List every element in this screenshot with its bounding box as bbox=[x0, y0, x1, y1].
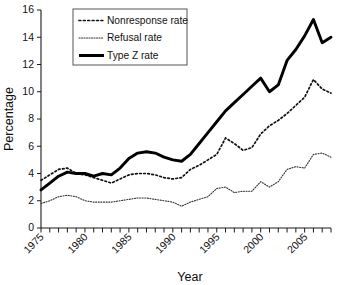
x-tick-label: 1980 bbox=[65, 230, 90, 255]
y-tick-label: 4 bbox=[28, 167, 34, 179]
line-chart: 0246810121416197519801985199019952000200… bbox=[0, 0, 341, 285]
legend: Nonresponse rateRefusal rateType Z rate bbox=[73, 9, 188, 65]
y-axis-ticks: 0246810121416 bbox=[22, 3, 41, 233]
y-axis-title: Percentage bbox=[2, 87, 16, 151]
y-tick-label: 8 bbox=[28, 112, 34, 124]
x-axis-labels: 1975198019851990199520002005 bbox=[21, 230, 310, 255]
series-line-nonresponse-rate bbox=[41, 79, 331, 183]
y-tick-label: 0 bbox=[28, 221, 34, 233]
x-tick-label: 1990 bbox=[153, 230, 178, 255]
x-tick-label: 1995 bbox=[197, 230, 222, 255]
legend-label: Type Z rate bbox=[107, 50, 159, 61]
x-axis-title: Year bbox=[177, 270, 202, 284]
y-tick-label: 2 bbox=[28, 194, 34, 206]
y-tick-label: 6 bbox=[28, 140, 34, 152]
x-tick-label: 2005 bbox=[285, 230, 310, 255]
y-tick-label: 14 bbox=[22, 31, 34, 43]
legend-label: Refusal rate bbox=[107, 32, 162, 43]
x-axis-ticks bbox=[41, 228, 331, 233]
series-line-refusal-rate bbox=[41, 153, 331, 206]
y-tick-label: 16 bbox=[22, 3, 34, 15]
legend-label: Nonresponse rate bbox=[107, 15, 188, 26]
y-tick-label: 12 bbox=[22, 58, 34, 70]
x-tick-label: 1975 bbox=[21, 230, 46, 255]
x-tick-label: 2000 bbox=[241, 230, 266, 255]
x-tick-label: 1985 bbox=[109, 230, 134, 255]
chart-container: 0246810121416197519801985199019952000200… bbox=[0, 0, 341, 285]
y-tick-label: 10 bbox=[22, 85, 34, 97]
